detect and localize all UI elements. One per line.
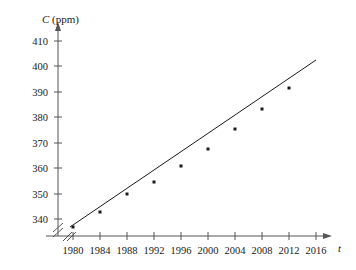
y-axis-title: C (ppm) (42, 13, 79, 25)
y-axis-unit: (ppm) (52, 13, 79, 25)
y-tick-label-340: 340 (10, 214, 48, 225)
data-point (72, 226, 75, 229)
x-tick-label-1988: 1988 (117, 245, 138, 256)
y-tick-label-350: 350 (10, 189, 48, 200)
y-tick-label-410: 410 (10, 36, 48, 47)
x-tick-label-2016: 2016 (306, 245, 327, 256)
y-tick-label-400: 400 (10, 61, 48, 72)
x-tick-label-1980: 1980 (63, 245, 84, 256)
y-axis (55, 22, 61, 236)
trend-line (70, 60, 316, 227)
y-tick-label-380: 380 (10, 112, 48, 123)
chart-figure: 410 400 390 380 370 360 350 340 1980 198… (0, 0, 356, 270)
x-tick-label-1984: 1984 (90, 245, 111, 256)
y-tick-label-390: 390 (10, 87, 48, 98)
y-tick-label-370: 370 (10, 138, 48, 149)
y-tick-label-360: 360 (10, 163, 48, 174)
data-point (261, 108, 264, 111)
x-tick-label-2000: 2000 (198, 245, 219, 256)
x-axis-title: t (338, 242, 341, 254)
data-point (153, 181, 156, 184)
x-tick-label-2004: 2004 (225, 245, 246, 256)
data-point (126, 193, 129, 196)
data-point (234, 128, 237, 131)
data-point (99, 211, 102, 214)
x-tick-label-1996: 1996 (171, 245, 192, 256)
x-tick-label-2008: 2008 (252, 245, 273, 256)
x-axis-arrow (323, 233, 332, 239)
x-tick-label-1992: 1992 (144, 245, 165, 256)
scatter-plot-canvas (0, 0, 356, 270)
data-points (72, 87, 291, 229)
x-tick-label-2012: 2012 (279, 245, 300, 256)
data-point (288, 87, 291, 90)
data-point (180, 165, 183, 168)
data-point (207, 148, 210, 151)
